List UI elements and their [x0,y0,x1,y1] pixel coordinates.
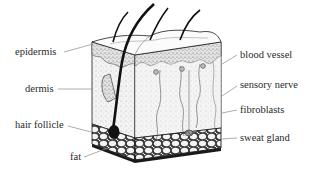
leader-sweat-gland [222,138,237,139]
leader-epidermis [64,44,93,52]
leader-hair-follicle [68,126,91,132]
leader-fibroblasts [222,110,237,113]
label-epidermis: epidermis [15,46,56,58]
label-sensory-nerve: sensory nerve [240,79,298,91]
label-dermis: dermis [25,83,54,95]
label-fat: fat [70,151,81,163]
leader-sensory-nerve [222,86,237,96]
front-face [135,42,221,163]
label-fibroblasts: fibroblasts [240,104,284,116]
side-face [92,42,135,163]
label-hair-follicle: hair follicle [15,119,64,131]
label-sweat-gland: sweat gland [240,132,290,144]
leader-blood-vessel [222,55,237,64]
skin-block-illustration [0,0,316,195]
skin-diagram: epidermis dermis hair follicle fat blood… [0,0,316,195]
label-blood-vessel: blood vessel [240,49,292,61]
leader-fat [84,148,108,157]
